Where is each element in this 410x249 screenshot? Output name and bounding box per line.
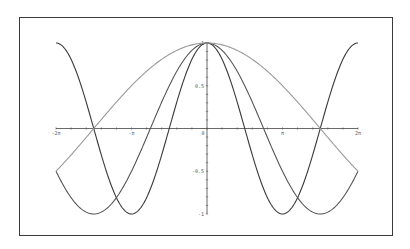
y-tick-label: 0.5 [195, 83, 204, 89]
x-tick-label: -π [128, 130, 134, 136]
y-tick-label: -1 [198, 211, 204, 217]
y-tick-label: -0.5 [192, 168, 204, 174]
line-chart: -2π-π0π2π10.5-0.5-1 [0, 0, 410, 249]
x-tick-label: π [281, 130, 284, 136]
x-tick-label: 2π [355, 130, 361, 136]
x-tick-label: 0 [201, 130, 204, 136]
x-tick-label: -2π [51, 130, 60, 136]
axes: -2π-π0π2π10.5-0.5-1 [51, 40, 361, 217]
